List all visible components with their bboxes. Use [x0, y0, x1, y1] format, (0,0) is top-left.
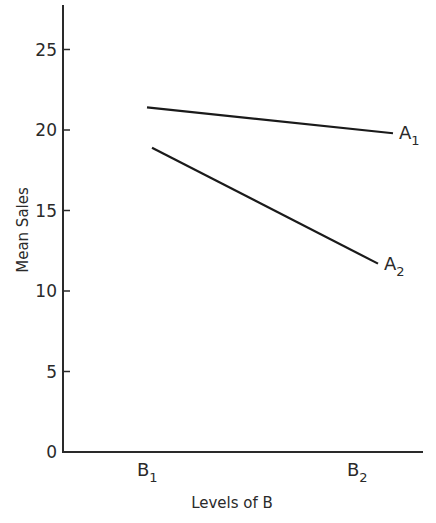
series-line-a2	[152, 148, 378, 264]
y-tick-label: 20	[35, 120, 57, 140]
y-tick-label: 10	[35, 281, 57, 301]
series-line-a1	[147, 107, 393, 133]
y-ticks: 0510152025	[35, 40, 70, 463]
series-label-a1: A1	[399, 122, 420, 148]
x-category-label: B2	[347, 459, 368, 485]
y-tick-label: 5	[46, 362, 57, 382]
y-tick-label: 15	[35, 201, 57, 221]
x-axis-title: Levels of B	[191, 494, 273, 512]
series-lines: A1A2	[147, 107, 420, 278]
series-label-a2: A2	[384, 253, 405, 279]
x-category-labels: B1B2	[137, 459, 368, 485]
line-chart: 0510152025 Mean Sales B1B2 Levels of B A…	[0, 0, 436, 523]
y-tick-label: 0	[46, 442, 57, 462]
x-category-label: B1	[137, 459, 158, 485]
y-axis-title: Mean Sales	[14, 187, 32, 273]
y-tick-label: 25	[35, 40, 57, 60]
